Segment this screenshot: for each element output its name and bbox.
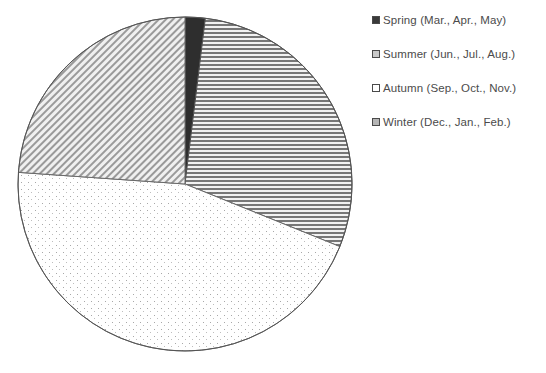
pie-chart-figure: Spring (Mar., Apr., May) Summer (Jun., J…: [0, 0, 546, 373]
pie-slices: [18, 17, 352, 351]
pie-chart-svg: [0, 0, 370, 373]
legend-label-autumn: Autumn (Sep., Oct., Nov.): [383, 82, 516, 95]
chart-legend: Spring (Mar., Apr., May) Summer (Jun., J…: [372, 14, 544, 150]
legend-label-winter: Winter (Dec., Jan., Feb.): [383, 116, 511, 129]
pie-slice-winter[interactable]: [18, 17, 185, 184]
legend-swatch-spring-icon: [372, 16, 380, 24]
legend-item-summer[interactable]: Summer (Jun., Jul., Aug.): [372, 48, 544, 82]
legend-item-spring[interactable]: Spring (Mar., Apr., May): [372, 14, 544, 48]
legend-swatch-winter-icon: [372, 118, 380, 126]
legend-label-spring: Spring (Mar., Apr., May): [383, 14, 506, 27]
legend-label-summer: Summer (Jun., Jul., Aug.): [383, 48, 515, 61]
legend-swatch-autumn-icon: [372, 84, 380, 92]
legend-swatch-summer-icon: [372, 50, 380, 58]
legend-item-autumn[interactable]: Autumn (Sep., Oct., Nov.): [372, 82, 544, 116]
pie-chart-plot-area: [0, 0, 370, 373]
legend-item-winter[interactable]: Winter (Dec., Jan., Feb.): [372, 116, 544, 150]
